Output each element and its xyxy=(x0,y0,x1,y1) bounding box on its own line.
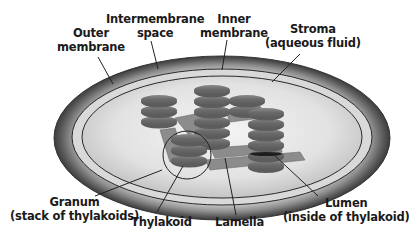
label-thylakoid: Thylakoid xyxy=(131,215,192,229)
label-granum: Granum (stack of thylakoids) xyxy=(10,195,139,223)
thylakoid-disc-top xyxy=(141,95,177,105)
label-line: (stack of thylakoids) xyxy=(10,209,139,223)
label-intermembrane-space: Intermembrane space xyxy=(106,12,204,40)
label-line: membrane xyxy=(57,40,125,54)
label-line: Intermembrane xyxy=(106,12,204,26)
label-line: (inside of thylakoid) xyxy=(283,210,409,224)
granum-circled xyxy=(171,134,207,168)
thylakoid-disc-top xyxy=(248,108,284,118)
label-line: Granum xyxy=(10,195,139,209)
label-line: (aqueous fluid) xyxy=(265,36,361,50)
lumen xyxy=(250,152,282,156)
label-line: Lamella xyxy=(215,215,264,229)
label-stroma: Stroma (aqueous fluid) xyxy=(265,22,361,50)
label-lumen: Lumen (inside of thylakoid) xyxy=(283,196,409,224)
granum-left xyxy=(141,95,177,129)
label-line: Stroma xyxy=(265,22,361,36)
label-line: Thylakoid xyxy=(131,215,192,229)
label-line: Lumen xyxy=(283,196,409,210)
thylakoid-disc-top xyxy=(229,95,265,105)
label-line: space xyxy=(106,26,204,40)
thylakoid-disc-top xyxy=(194,85,230,95)
label-lamella: Lamella xyxy=(215,215,264,229)
label-inner-membrane: Inner membrane xyxy=(200,12,268,40)
label-line: membrane xyxy=(200,26,268,40)
label-line: Inner xyxy=(200,12,268,26)
